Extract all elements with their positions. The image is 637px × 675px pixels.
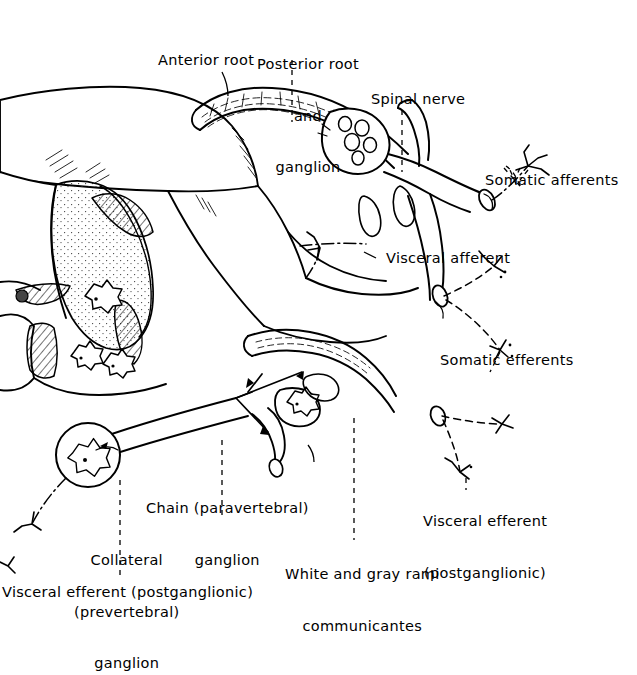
visceral-efferent-right-path xyxy=(443,420,460,472)
label-visceral-efferent-right-line2: (postganglionic) xyxy=(423,565,547,582)
somatic-efferent-path xyxy=(442,266,502,424)
visceral-afferent-path xyxy=(300,243,366,278)
visceral-efferent-bottom-path xyxy=(32,478,66,524)
label-white-and-gray-rami-communicantes: White and gray rami communicantes xyxy=(285,532,440,669)
label-chain-ganglion-line1: Chain (paravertebral) xyxy=(146,500,309,517)
label-collateral-line1: Collateral xyxy=(74,552,179,569)
label-spinal-nerve: Spinal nerve xyxy=(371,91,465,108)
label-white-gray-line1: White and gray rami xyxy=(285,566,440,583)
label-collateral-line3: ganglion xyxy=(74,655,179,672)
label-visceral-efferent-postganglionic-bottom: Visceral efferent (postganglionic) xyxy=(2,584,253,601)
sympathetic-chain-ganglion xyxy=(236,330,396,479)
label-somatic-afferents: Somatic afferents xyxy=(485,172,619,189)
label-visceral-efferent-postganglionic-right: Visceral efferent (postganglionic) xyxy=(423,479,547,616)
label-posterior-root-line1: Posterior root xyxy=(257,56,359,73)
label-visceral-efferent-right-line1: Visceral efferent xyxy=(423,513,547,530)
chain-to-collateral-tract xyxy=(100,398,248,456)
label-posterior-root-line2: and xyxy=(257,108,359,125)
label-anterior-root: Anterior root xyxy=(158,52,254,69)
label-somatic-efferents: Somatic efferents xyxy=(440,352,574,369)
label-visceral-afferent: Visceral afferent xyxy=(386,250,510,267)
label-posterior-root-line3: ganglion xyxy=(257,159,359,176)
label-white-gray-line2: communicantes xyxy=(285,618,440,635)
label-posterior-root-and-ganglion: Posterior root and ganglion xyxy=(257,22,359,210)
label-collateral-line2: (prevertebral) xyxy=(74,604,179,621)
